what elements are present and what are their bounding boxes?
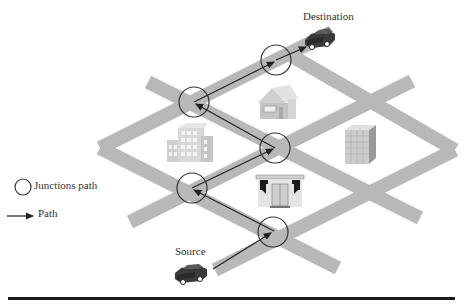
bottom-rule [8, 297, 455, 300]
house-icon [258, 85, 298, 119]
source-car-icon [175, 264, 207, 285]
tower-building-icon [345, 125, 376, 164]
legend-junction-label: Junctions path [34, 179, 97, 191]
destination-label: Destination [303, 10, 354, 22]
source-label: Source [175, 245, 206, 257]
office-building-icon [167, 123, 213, 162]
destination-car-icon [305, 28, 335, 50]
road-network [100, 32, 455, 270]
city-route-diagram [0, 0, 475, 306]
legend-path-label: Path [38, 207, 58, 219]
shop-icon [256, 175, 304, 208]
circle-icon [15, 179, 31, 195]
legend [7, 179, 33, 216]
